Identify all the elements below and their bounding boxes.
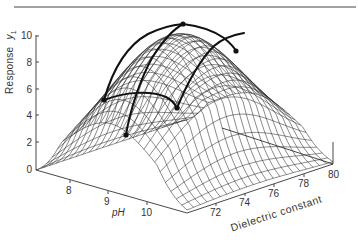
z-axis-title: Response y1: [4, 30, 17, 94]
point-e: [233, 48, 238, 53]
z-tick-8: 8: [18, 57, 32, 68]
z-axis-subscript: 1: [10, 30, 17, 34]
point-b: [174, 105, 179, 110]
point-c: [123, 132, 128, 137]
z-tick-10: 10: [18, 30, 32, 41]
x-tick-10: 10: [141, 208, 152, 218]
path-lower-arc: [104, 93, 177, 108]
x-tick-9: 9: [104, 197, 110, 207]
z-tick-2: 2: [18, 137, 32, 148]
z-axis-symbol: y: [4, 34, 15, 39]
z-tick-4: 4: [18, 110, 32, 121]
point-a: [101, 97, 106, 102]
point-d: [180, 21, 185, 26]
y-tick-78: 78: [298, 179, 309, 189]
z-tick-0: 0: [18, 164, 32, 175]
z-tick-6: 6: [18, 84, 32, 95]
y-tick-76: 76: [268, 189, 279, 199]
surface-mesh: [36, 34, 333, 210]
y-tick-72: 72: [210, 208, 221, 218]
y-tick-74: 74: [239, 198, 250, 208]
z-axis: [36, 35, 39, 170]
y-tick-80: 80: [328, 170, 339, 180]
x-axis-title: pH: [112, 207, 125, 218]
x-tick-8: 8: [66, 186, 72, 196]
